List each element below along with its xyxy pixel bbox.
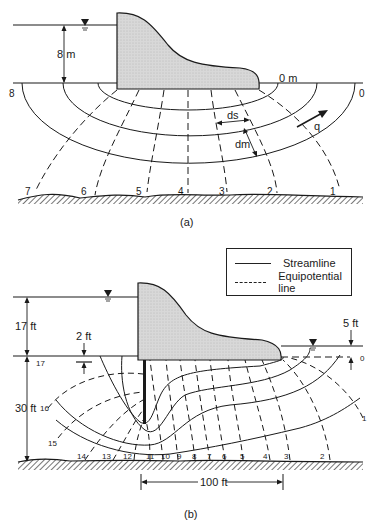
equipotential-label-b: 11 bbox=[146, 452, 155, 461]
equipotential-label-a: 3 bbox=[219, 186, 225, 197]
downstream-head-label-a: 0 m bbox=[279, 72, 297, 84]
upstream-head-label-a: 8 m bbox=[57, 48, 75, 60]
equipotential-label-b: 4 bbox=[263, 452, 268, 461]
equipotential-label-a: 6 bbox=[81, 186, 87, 197]
right-end-label-a: 0 bbox=[359, 88, 365, 99]
dashed-line-swatch bbox=[235, 282, 266, 283]
water-level-icon bbox=[104, 290, 112, 301]
equipotential-label-b: 13 bbox=[102, 452, 111, 461]
legend-label: Equipotential line bbox=[278, 270, 351, 294]
upstream-head-label-b: 17 ft bbox=[15, 320, 36, 332]
dam-a bbox=[117, 13, 259, 89]
legend-label: Streamline bbox=[283, 257, 336, 269]
solid-line-swatch bbox=[235, 263, 271, 264]
tailwater-label: 5 ft bbox=[343, 317, 358, 329]
equipotential-label-b: 7 bbox=[207, 452, 212, 461]
ds-label: ds bbox=[227, 109, 239, 121]
figure-b bbox=[13, 283, 363, 490]
equipotential-label-b: 5 bbox=[240, 452, 245, 461]
equipotential-label-a: 7 bbox=[25, 186, 31, 197]
equipotential-label-b: 14 bbox=[77, 452, 86, 461]
equipotential-label-a: 1 bbox=[330, 186, 336, 197]
legend-item-equipotential: Equipotential line bbox=[227, 274, 351, 290]
base-length-label: 100 ft bbox=[200, 476, 228, 488]
equipotential-label-b: 1 bbox=[362, 414, 367, 423]
equipotential-label-b: 3 bbox=[284, 452, 289, 461]
equipotential-label-a: 2 bbox=[267, 186, 273, 197]
equipotential-label-b: 6 bbox=[222, 452, 227, 461]
dm-label: dm bbox=[235, 138, 250, 150]
equipotential-label-b: 9 bbox=[177, 452, 182, 461]
legend-item-streamline: Streamline bbox=[227, 255, 351, 271]
equipotential-label-a: 5 bbox=[136, 186, 142, 197]
equipotential-label-b: 12 bbox=[123, 452, 132, 461]
equipotential-label-b: 8 bbox=[192, 452, 197, 461]
figure-a bbox=[13, 13, 363, 204]
caption-b: (b) bbox=[184, 508, 197, 520]
left-level-label-b: 17 bbox=[36, 359, 45, 368]
q-label: q bbox=[314, 120, 320, 132]
legend: Streamline Equipotential line bbox=[226, 248, 352, 296]
cutoff-depth-label: 2 ft bbox=[76, 330, 91, 342]
equipotential-label-b: 2 bbox=[320, 452, 325, 461]
caption-a: (a) bbox=[180, 216, 193, 228]
equipotential-label-a: 4 bbox=[178, 186, 184, 197]
right-level-label-b: 0 bbox=[360, 354, 365, 363]
depth-label-b: 30 ft bbox=[15, 402, 36, 414]
equipotential-label-b: 10 bbox=[161, 452, 170, 461]
equipotential-label-b: 15 bbox=[48, 439, 57, 448]
left-end-label-a: 8 bbox=[9, 88, 15, 99]
equipotential-label-b: 16 bbox=[40, 404, 49, 413]
